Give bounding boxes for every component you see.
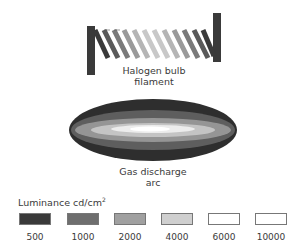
legend-label-6000: 6000 bbox=[204, 232, 244, 242]
legend-label-1000: 1000 bbox=[63, 232, 103, 242]
legend-label-2000: 2000 bbox=[110, 232, 150, 242]
arc-caption-line1: Gas discharge bbox=[103, 166, 203, 177]
legend-swatch-6000 bbox=[208, 213, 240, 225]
legend-swatch-2000 bbox=[114, 213, 146, 225]
arc-caption-line2: arc bbox=[103, 177, 203, 188]
arc-caption: Gas discharge arc bbox=[103, 166, 203, 188]
legend-title: Luminance cd/cm2 bbox=[18, 196, 106, 208]
legend-label-10000: 10000 bbox=[251, 232, 291, 242]
legend-label-4000: 4000 bbox=[157, 232, 197, 242]
legend-swatch-4000 bbox=[161, 213, 193, 225]
legend-swatch-1000 bbox=[67, 213, 99, 225]
legend-label-500: 500 bbox=[15, 232, 55, 242]
legend-swatch-500 bbox=[19, 213, 51, 225]
legend-swatch-10000 bbox=[255, 213, 287, 225]
luminance-comparison-diagram: Halogen bulb filament Gas discharge arc … bbox=[0, 0, 299, 252]
